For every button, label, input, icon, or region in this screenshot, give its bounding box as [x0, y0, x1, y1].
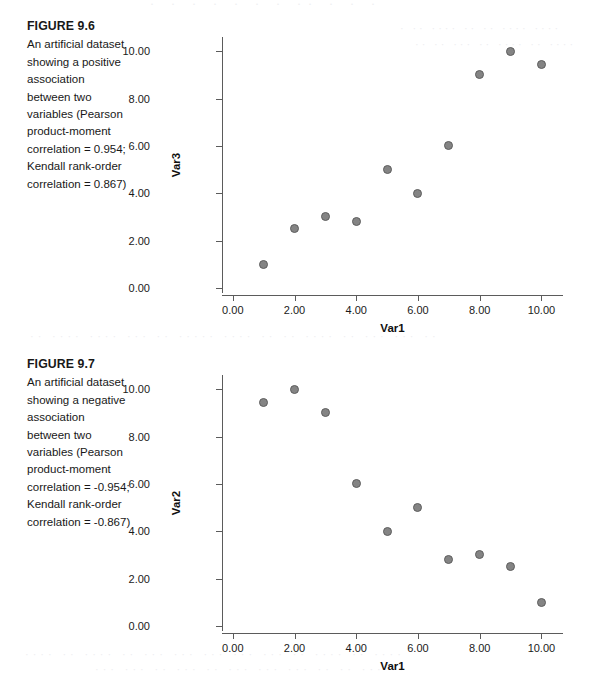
x-axis-tick-label: 4.00: [346, 304, 367, 316]
x-axis-tick-mark: [541, 633, 542, 639]
x-axis-line: [222, 633, 563, 634]
y-axis-tick-label: 2.00: [129, 235, 150, 247]
y-axis-tick-label: 6.00: [129, 478, 150, 490]
scatter-data-point: [444, 141, 453, 150]
y-axis-tick-mark: [216, 51, 222, 52]
scatter-data-point: [475, 550, 484, 559]
figure-9-7-caption-body: An artificial dataset showing a negative…: [27, 374, 131, 531]
scatter-data-point: [506, 47, 515, 56]
y-axis-tick-label: 0.00: [129, 620, 150, 632]
y-axis-tick-label: 10.00: [122, 45, 150, 57]
figure-9-7-caption-title: FIGURE 9.7: [27, 356, 131, 373]
y-axis-line: [222, 37, 223, 293]
y-axis-tick-mark: [216, 146, 222, 147]
figure-9-6-scatter-plot: 0.002.004.006.008.0010.00 0.002.004.006.…: [150, 10, 580, 340]
x-axis-tick-mark: [541, 295, 542, 301]
scatter-data-point: [444, 555, 453, 564]
y-axis-tick-mark: [216, 531, 222, 532]
x-axis-tick-mark: [356, 295, 357, 301]
y-axis-title: Var2: [170, 491, 182, 515]
x-axis-title: Var1: [222, 322, 563, 334]
x-axis-tick-mark: [233, 633, 234, 639]
scatter-data-point: [413, 503, 422, 512]
figure-9-6-caption-body: An artificial dataset showing a positive…: [27, 36, 131, 193]
x-axis-tick-mark: [418, 295, 419, 301]
x-axis-tick-label: 8.00: [469, 642, 490, 654]
scatter-data-point: [475, 70, 484, 79]
y-axis-tick-label: 10.00: [122, 383, 150, 395]
x-axis-tick-label: 0.00: [222, 304, 243, 316]
y-axis-tick-mark: [216, 437, 222, 438]
x-axis-tick-label: 6.00: [407, 642, 428, 654]
y-axis-tick-mark: [216, 288, 222, 289]
y-axis-tick-label: 4.00: [129, 525, 150, 537]
y-axis-tick-mark: [216, 241, 222, 242]
y-axis-tick-mark: [216, 626, 222, 627]
y-axis-tick-mark: [216, 99, 222, 100]
y-axis-tick-label: 6.00: [129, 140, 150, 152]
y-axis-tick-mark: [216, 193, 222, 194]
x-axis-tick-mark: [233, 295, 234, 301]
x-axis-tick-mark: [480, 295, 481, 301]
x-axis-tick-label: 0.00: [222, 642, 243, 654]
scatter-data-point: [321, 212, 330, 221]
x-axis-tick-label: 10.00: [528, 642, 556, 654]
scatter-data-point: [352, 479, 361, 488]
x-axis-tick-mark: [418, 633, 419, 639]
x-axis-tick-label: 8.00: [469, 304, 490, 316]
scatter-data-point: [259, 260, 268, 269]
y-axis-tick-mark: [216, 389, 222, 390]
scatter-data-point: [290, 385, 299, 394]
x-axis-tick-label: 6.00: [407, 304, 428, 316]
x-axis-tick-mark: [295, 633, 296, 639]
y-axis-line: [222, 375, 223, 631]
scatter-data-point: [352, 217, 361, 226]
scatter-data-point: [259, 398, 268, 407]
y-axis-tick-mark: [216, 484, 222, 485]
y-axis-tick-label: 8.00: [129, 431, 150, 443]
scatter-data-point: [383, 527, 392, 536]
scatter-data-point: [383, 165, 392, 174]
scatter-data-point: [537, 598, 546, 607]
x-axis-tick-mark: [295, 295, 296, 301]
x-axis-tick-label: 2.00: [284, 304, 305, 316]
figure-9-6-caption-title: FIGURE 9.6: [27, 18, 131, 35]
y-axis-tick-label: 4.00: [129, 187, 150, 199]
figure-9-6-caption: FIGURE 9.6 An artificial dataset showing…: [27, 18, 131, 193]
scatter-data-point: [506, 562, 515, 571]
y-axis-tick-label: 8.00: [129, 93, 150, 105]
x-axis-tick-label: 10.00: [528, 304, 556, 316]
figure-9-7-caption: FIGURE 9.7 An artificial dataset showing…: [27, 356, 131, 531]
x-axis-tick-mark: [356, 633, 357, 639]
y-axis-title: Var3: [170, 153, 182, 177]
y-axis-tick-label: 2.00: [129, 573, 150, 585]
x-axis-line: [222, 295, 563, 296]
x-axis-tick-mark: [480, 633, 481, 639]
x-axis-tick-label: 2.00: [284, 642, 305, 654]
scatter-data-point: [413, 189, 422, 198]
figure-9-7-scatter-plot: 0.002.004.006.008.0010.00 0.002.004.006.…: [150, 348, 580, 678]
scatter-data-point: [290, 224, 299, 233]
scatter-data-point: [321, 408, 330, 417]
x-axis-tick-label: 4.00: [346, 642, 367, 654]
y-axis-tick-mark: [216, 579, 222, 580]
x-axis-title: Var1: [222, 660, 563, 672]
scatter-data-point: [537, 60, 546, 69]
y-axis-tick-label: 0.00: [129, 282, 150, 294]
